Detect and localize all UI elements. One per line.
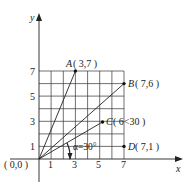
label-C: C ( 6<30 ) xyxy=(106,116,145,128)
svg-text:B: B xyxy=(128,78,134,89)
x-tick-3: 3 xyxy=(72,159,77,170)
angle-label: α=30° xyxy=(73,142,97,152)
x-axis-label: x xyxy=(175,163,181,174)
svg-text:C: C xyxy=(106,116,113,127)
svg-text:A: A xyxy=(65,58,73,69)
svg-text:( 7,1 ): ( 7,1 ) xyxy=(135,141,159,153)
svg-text:( 7,6 ): ( 7,6 ) xyxy=(135,78,159,90)
y-tick-3: 3 xyxy=(30,116,35,127)
label-B: B ( 7,6 ) xyxy=(128,78,159,90)
x-tick-1: 1 xyxy=(48,159,53,170)
x-tick-7: 7 xyxy=(121,159,126,170)
point-D xyxy=(122,145,125,148)
coordinate-diagram: y x ( 0,0 ) 1 3 5 7 1 3 5 7 A ( 3,7 ) B … xyxy=(0,0,187,194)
y-tick-1: 1 xyxy=(30,141,35,152)
y-tick-7: 7 xyxy=(30,66,35,77)
y-axis-label: y xyxy=(29,12,35,23)
label-D: D ( 7,1 ) xyxy=(127,141,159,153)
point-A xyxy=(74,69,77,72)
svg-text:( 6<30 ): ( 6<30 ) xyxy=(113,116,145,128)
y-axis-arrow-icon xyxy=(36,13,42,21)
label-A: A ( 3,7 ) xyxy=(65,58,97,70)
x-tick-5: 5 xyxy=(96,159,101,170)
axes xyxy=(10,16,181,182)
svg-text:( 3,7 ): ( 3,7 ) xyxy=(73,58,97,70)
point-B xyxy=(122,82,125,85)
y-tick-5: 5 xyxy=(30,91,35,102)
origin-label: ( 0,0 ) xyxy=(4,159,28,171)
point-C xyxy=(101,120,104,123)
ray-A xyxy=(39,71,75,159)
x-axis-arrow-icon xyxy=(175,156,183,162)
